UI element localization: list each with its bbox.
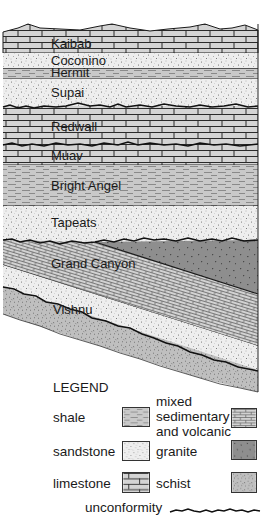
label-vishnu: Vishnu (53, 302, 93, 317)
schist-swatch-icon (231, 472, 257, 493)
layer-hermit (3, 68, 258, 79)
legend-label-granite: granite (156, 444, 197, 459)
legend-label-mixed: mixed sedimentary and volcanic (156, 394, 231, 439)
legend-label-limestone: limestone (53, 476, 111, 491)
label-tapeats: Tapeats (51, 215, 97, 230)
label-kaibab: Kaibab (51, 36, 91, 51)
layer-bright-angel (3, 165, 258, 206)
label-muav: Muav (51, 148, 83, 163)
label-supai: Supai (51, 85, 84, 100)
shale-swatch-icon (122, 407, 150, 427)
label-grand-canyon: Grand Canyon (51, 256, 136, 271)
legend-label-shale: shale (53, 410, 85, 425)
legend-label-sandstone: sandstone (53, 444, 115, 459)
layer-supai (3, 79, 258, 107)
limestone-swatch-icon (122, 472, 150, 493)
layer-coconino (3, 53, 258, 68)
legend-unconformity-icon (170, 509, 260, 512)
label-bright-angel: Bright Angel (51, 178, 121, 193)
legend-title: LEGEND (53, 380, 109, 395)
layer-muav (3, 144, 258, 165)
legend-label-mixed-line3: and volcanic (156, 424, 231, 439)
layer-tapeats (3, 206, 258, 242)
legend-label-mixed-line1: mixed (156, 394, 231, 409)
layer-kaibab (3, 24, 258, 53)
legend-label-unconformity: unconformity (85, 500, 162, 515)
legend-label-schist: schist (156, 476, 191, 491)
granite-swatch-icon (231, 440, 257, 460)
label-redwall: Redwall (51, 119, 97, 134)
mixed-swatch-icon (231, 408, 257, 428)
sandstone-swatch-icon (122, 441, 150, 461)
layer-redwall (3, 106, 258, 144)
legend-label-mixed-line2: sedimentary (156, 409, 231, 424)
label-hermit: Hermit (51, 65, 90, 80)
